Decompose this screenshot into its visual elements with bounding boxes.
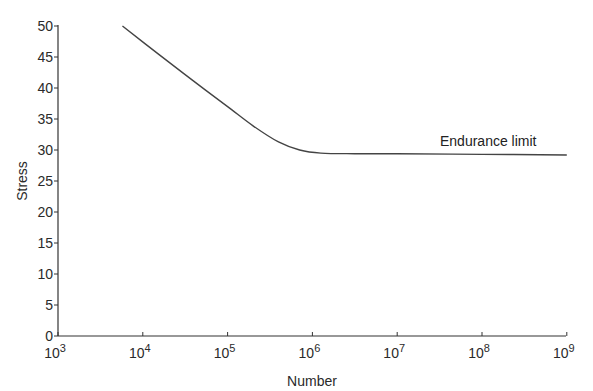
y-tick-label: 45 <box>37 49 53 65</box>
y-tick-label: 20 <box>37 204 53 220</box>
x-tick-label: 104 <box>129 342 151 361</box>
x-tick-label: 106 <box>299 342 321 361</box>
y-ticks: 05101520253035404550 <box>37 18 58 344</box>
y-tick-label: 15 <box>37 235 53 251</box>
sn-curve-chart: 05101520253035404550 1031041051061071081… <box>0 0 593 391</box>
y-tick-label: 10 <box>37 266 53 282</box>
x-tick-label: 109 <box>553 342 575 361</box>
x-tick-label: 105 <box>214 342 236 361</box>
x-tick-label: 108 <box>468 342 490 361</box>
y-tick-label: 50 <box>37 18 53 34</box>
endurance-limit-label: Endurance limit <box>440 133 537 149</box>
y-tick-label: 30 <box>37 142 53 158</box>
y-tick-label: 25 <box>37 173 53 189</box>
y-tick-label: 5 <box>45 297 53 313</box>
x-tick-label: 103 <box>44 342 66 361</box>
axes <box>58 25 566 336</box>
y-axis-label: Stress <box>14 161 30 201</box>
x-tick-label: 107 <box>383 342 405 361</box>
y-tick-label: 40 <box>37 80 53 96</box>
y-tick-label: 35 <box>37 111 53 127</box>
y-tick-label: 0 <box>45 328 53 344</box>
x-axis-label: Number <box>287 373 337 389</box>
